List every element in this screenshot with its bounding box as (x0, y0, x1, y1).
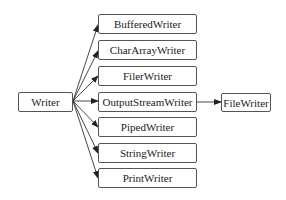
node-pipedwriter: PipedWriter (98, 117, 197, 137)
node-outputstreamwriter: OutputStreamWriter (98, 92, 197, 112)
arrow-to-printwriter (73, 101, 98, 178)
node-filewriter: FileWriter (221, 93, 271, 112)
node-chararraywriter: CharArrayWriter (98, 40, 197, 60)
node-printwriter: PrintWriter (98, 168, 197, 188)
arrow-to-bufferedwriter (73, 25, 98, 101)
arrow-to-chararraywriter (73, 51, 98, 101)
node-filerwriter: FilerWriter (98, 66, 197, 86)
node-label: OutputStreamWriter (103, 96, 193, 108)
node-label: FilerWriter (123, 70, 172, 82)
node-label: Writer (31, 96, 59, 108)
node-label: PipedWriter (121, 121, 174, 133)
node-label: FileWriter (223, 97, 268, 109)
arrow-to-stringwriter (73, 101, 98, 153)
node-label: PrintWriter (123, 172, 173, 184)
node-label: StringWriter (120, 147, 175, 159)
node-label: CharArrayWriter (110, 44, 185, 56)
node-stringwriter: StringWriter (98, 143, 197, 163)
node-label: BufferedWriter (114, 18, 181, 30)
node-writer: Writer (18, 92, 73, 112)
node-bufferedwriter: BufferedWriter (98, 14, 197, 34)
